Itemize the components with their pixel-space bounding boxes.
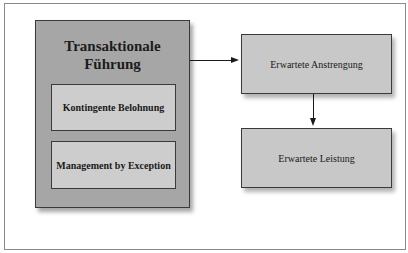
arrow-effort-to-performance-line xyxy=(313,94,314,120)
main-title-line1: Transaktionale xyxy=(36,37,189,55)
management-by-exception-box: Management by Exception xyxy=(51,141,176,189)
contingent-reward-label: Kontingente Belohnung xyxy=(63,102,164,113)
arrow-right-icon xyxy=(231,57,239,63)
expected-effort-box: Erwartete Anstrengung xyxy=(241,34,392,94)
transactional-leadership-box: Transaktionale Führung Kontingente Beloh… xyxy=(35,20,190,208)
expected-performance-box: Erwartete Leistung xyxy=(241,128,392,188)
expected-performance-label: Erwartete Leistung xyxy=(278,153,354,164)
main-title-line2: Führung xyxy=(36,55,189,73)
arrow-down-icon xyxy=(310,118,316,126)
main-title: Transaktionale Führung xyxy=(36,37,189,73)
contingent-reward-box: Kontingente Belohnung xyxy=(51,84,176,131)
management-by-exception-label: Management by Exception xyxy=(56,160,170,171)
arrow-main-to-effort-line xyxy=(190,60,232,61)
expected-effort-label: Erwartete Anstrengung xyxy=(270,59,362,70)
